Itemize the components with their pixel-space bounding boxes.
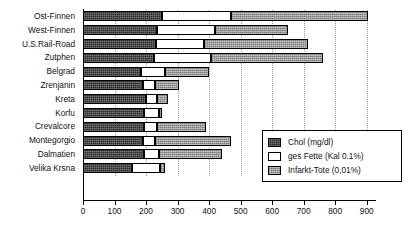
bar-segment-chol xyxy=(83,122,144,132)
category-label: Kreta xyxy=(0,93,80,107)
legend-label: Chol (mg/dl) xyxy=(288,137,333,147)
bar-segment-chol xyxy=(83,53,154,63)
bar-segment-infarkt xyxy=(157,122,206,132)
category-axis-labels: Ost-FinnenWest-FinnenU.S.Rail-RoadZutphe… xyxy=(0,10,80,176)
x-tick-label: 0 xyxy=(81,206,86,216)
x-tick xyxy=(209,200,210,205)
legend-item: Chol (mg/dl) xyxy=(268,135,396,149)
white-swatch xyxy=(268,152,281,161)
stacked-bar-chart: Ost-FinnenWest-FinnenU.S.Rail-RoadZutphe… xyxy=(0,0,410,234)
x-tick xyxy=(304,200,305,205)
x-tick xyxy=(178,200,179,205)
x-tick xyxy=(367,200,368,205)
bar-row xyxy=(83,93,373,107)
legend-label: Infarkt-Tote (0,01%) xyxy=(288,165,361,175)
bar-row xyxy=(83,24,373,38)
category-label: Zrenjanin xyxy=(0,79,80,93)
bar-segment-fette xyxy=(144,149,158,159)
bar-segment-infarkt xyxy=(160,163,165,173)
legend-item: ges Fette (Kal 0.1%) xyxy=(268,149,396,163)
category-label: Zutphen xyxy=(0,51,80,65)
bar-segment-chol xyxy=(83,94,146,104)
bar-segment-infarkt xyxy=(159,108,162,118)
bar-row xyxy=(83,10,373,24)
bar-segment-chol xyxy=(83,25,157,35)
bar-segment-fette xyxy=(132,163,160,173)
category-label: Ost-Finnen xyxy=(0,10,80,24)
bar-row xyxy=(83,65,373,79)
bar-segment-fette xyxy=(143,136,156,146)
x-tick-label: 400 xyxy=(202,206,216,216)
bar-segment-infarkt xyxy=(211,53,323,63)
bar-segment-fette xyxy=(143,80,156,90)
bar-segment-fette xyxy=(154,53,211,63)
x-tick-label: 600 xyxy=(265,206,279,216)
bar-segment-fette xyxy=(144,122,157,132)
bar-segment-fette xyxy=(157,25,215,35)
chart-legend: Chol (mg/dl)ges Fette (Kal 0.1%)Infarkt-… xyxy=(262,130,402,182)
bar-segment-fette xyxy=(141,67,165,77)
bar-segment-infarkt xyxy=(215,25,288,35)
x-tick xyxy=(83,200,84,205)
x-tick-label: 200 xyxy=(139,206,153,216)
legend-item: Infarkt-Tote (0,01%) xyxy=(268,163,396,177)
category-label: Montegorgio xyxy=(0,134,80,148)
x-tick xyxy=(272,200,273,205)
x-tick xyxy=(146,200,147,205)
bar-segment-chol xyxy=(83,108,144,118)
legend-label: ges Fette (Kal 0.1%) xyxy=(288,151,364,161)
bar-segment-infarkt xyxy=(157,94,168,104)
x-tick-label: 900 xyxy=(360,206,374,216)
bar-segment-infarkt xyxy=(159,149,222,159)
category-label: Korfu xyxy=(0,107,80,121)
bar-row xyxy=(83,38,373,52)
stacked-bar xyxy=(83,25,288,35)
bar-segment-infarkt xyxy=(155,80,179,90)
x-tick xyxy=(115,200,116,205)
x-tick-label: 500 xyxy=(234,206,248,216)
bar-segment-fette xyxy=(156,39,205,49)
gray-stipple-swatch xyxy=(268,166,281,175)
category-label: West-Finnen xyxy=(0,24,80,38)
bar-segment-fette xyxy=(144,108,158,118)
x-tick xyxy=(335,200,336,205)
stacked-bar xyxy=(83,163,165,173)
stacked-bar xyxy=(83,94,168,104)
bar-segment-chol xyxy=(83,149,144,159)
stacked-bar xyxy=(83,39,308,49)
x-tick-label: 700 xyxy=(297,206,311,216)
bar-segment-chol xyxy=(83,67,141,77)
x-tick-label: 100 xyxy=(108,206,122,216)
stacked-bar xyxy=(83,122,206,132)
category-label: Velika Krsna xyxy=(0,162,80,176)
bar-row xyxy=(83,51,373,65)
bar-segment-infarkt xyxy=(231,11,368,21)
bar-segment-chol xyxy=(83,80,143,90)
bar-segment-chol xyxy=(83,163,132,173)
stacked-bar xyxy=(83,149,222,159)
bar-segment-infarkt xyxy=(165,67,209,77)
dark-stipple-swatch xyxy=(268,138,281,147)
stacked-bar xyxy=(83,136,231,146)
bar-segment-fette xyxy=(162,11,231,21)
x-tick-label: 300 xyxy=(171,206,185,216)
x-tick-label: 800 xyxy=(328,206,342,216)
bar-segment-chol xyxy=(83,39,156,49)
bar-segment-infarkt xyxy=(155,136,231,146)
stacked-bar xyxy=(83,108,162,118)
stacked-bar xyxy=(83,67,209,77)
bar-row xyxy=(83,79,373,93)
bar-segment-chol xyxy=(83,11,162,21)
bar-segment-chol xyxy=(83,136,143,146)
category-label: Belgrad xyxy=(0,65,80,79)
bar-segment-fette xyxy=(146,94,157,104)
stacked-bar xyxy=(83,53,323,63)
stacked-bar xyxy=(83,11,368,21)
x-axis-ticks: 0100200300400500600700800900 xyxy=(83,200,376,224)
category-label: Dalmatien xyxy=(0,148,80,162)
stacked-bar xyxy=(83,80,179,90)
x-tick xyxy=(241,200,242,205)
bar-row xyxy=(83,107,373,121)
bar-segment-infarkt xyxy=(204,39,308,49)
category-label: U.S.Rail-Road xyxy=(0,38,80,52)
